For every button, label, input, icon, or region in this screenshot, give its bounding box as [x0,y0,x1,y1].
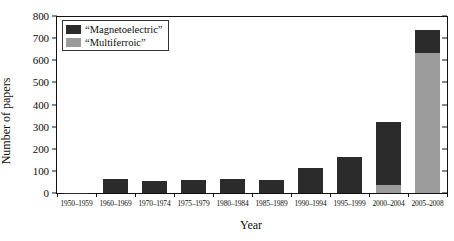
bar-segment-magnetoelectric [415,30,440,53]
bar[interactable] [181,180,206,193]
legend-label-magnetoelectric: “Magnetoelectric” [85,24,163,35]
legend: “Magnetoelectric” “Multiferroic” [62,20,169,51]
legend-swatch-magnetoelectric [66,25,81,34]
bar[interactable] [298,168,323,193]
bar-segment-magnetoelectric [181,180,206,193]
bar[interactable] [220,179,245,193]
x-axis-tick [57,193,58,197]
x-axis-tick [447,193,448,197]
y-axis-tick-label: 0 [44,187,49,199]
x-axis-tick [135,193,136,197]
x-axis-tick-label: 1950–1959 [61,199,93,208]
y-axis-tick-label: 800 [33,10,49,22]
y-axis-tick [52,126,57,127]
y-axis-tick-label: 200 [33,143,49,155]
x-axis-tick-label: 1970–1974 [139,199,171,208]
y-axis-tick-right [442,126,447,127]
x-axis-tick [369,193,370,197]
bar-segment-magnetoelectric [337,157,362,193]
x-axis-tick-label: 2000–2004 [373,199,405,208]
y-axis-tick-label: 500 [33,76,49,88]
x-axis-tick-label: 1975–1979 [178,199,210,208]
x-axis-tick-label: 1985–1989 [256,199,288,208]
x-axis-tick [408,193,409,197]
bar[interactable] [337,157,362,193]
x-axis-tick [96,193,97,197]
y-axis-tick-label: 300 [33,121,49,133]
x-axis-tick-label: 1960–1969 [100,199,132,208]
x-axis-tick [174,193,175,197]
y-axis-tick-right [442,170,447,171]
y-axis-tick [52,16,57,17]
bar[interactable] [142,181,167,193]
bar-segment-magnetoelectric [142,181,167,193]
x-axis-tick [330,193,331,197]
bar-segment-magnetoelectric [259,180,284,193]
y-axis-tick [52,38,57,39]
bar[interactable] [259,180,284,193]
y-axis-tick [52,82,57,83]
y-axis-tick-right [442,104,447,105]
bar-segment-magnetoelectric [376,122,401,185]
x-axis-title: Year [56,218,446,233]
bar[interactable] [376,122,401,193]
y-axis-title: Number of papers [0,51,14,191]
x-axis-tick [291,193,292,197]
y-axis-tick [52,148,57,149]
figure: Number of papers Year 010020030040050060… [0,0,454,241]
bar-segment-multiferroic [415,53,440,193]
y-axis-tick-label: 600 [33,54,49,66]
y-axis-tick-label: 100 [33,165,49,177]
legend-label-multiferroic: “Multiferroic” [85,37,146,48]
y-axis-tick-right [442,38,447,39]
x-axis-tick-label: 1980–1984 [217,199,249,208]
y-axis-tick-right [442,16,447,17]
y-axis-tick-right [442,82,447,83]
y-axis-tick [52,104,57,105]
y-axis-tick-right [442,148,447,149]
legend-item-magnetoelectric: “Magnetoelectric” [66,23,163,35]
bar-segment-multiferroic [376,185,401,193]
x-axis-tick-label: 1990–1994 [295,199,327,208]
x-axis-tick-label: 2005–2008 [412,199,444,208]
x-axis-tick-label: 1995–1999 [334,199,366,208]
y-axis-tick-label: 400 [33,99,49,111]
bar-segment-magnetoelectric [220,179,245,193]
bar[interactable] [103,179,128,193]
bar[interactable] [415,30,440,193]
bar-segment-magnetoelectric [298,168,323,193]
y-axis-tick-right [442,60,447,61]
y-axis-tick-label: 700 [33,32,49,44]
y-axis-tick [52,170,57,171]
legend-item-multiferroic: “Multiferroic” [66,36,163,48]
x-axis-tick [213,193,214,197]
y-axis-tick [52,60,57,61]
x-axis-tick [252,193,253,197]
legend-swatch-multiferroic [66,38,81,47]
bar-segment-magnetoelectric [103,179,128,193]
